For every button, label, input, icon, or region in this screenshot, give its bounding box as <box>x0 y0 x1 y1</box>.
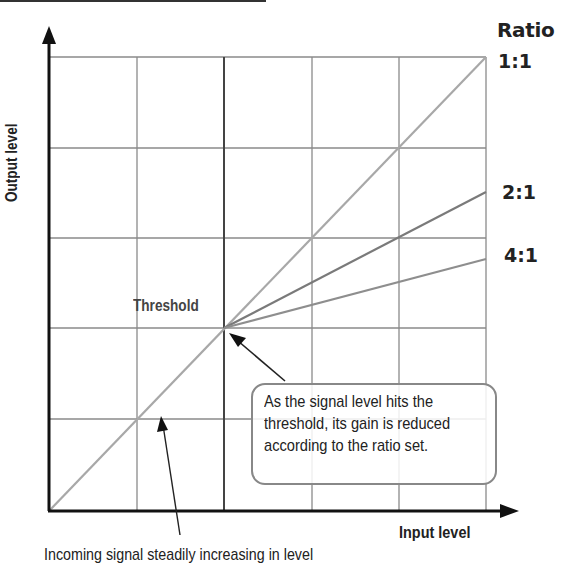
callout-box: As the signal level hits the threshold, … <box>251 383 497 485</box>
ratio-legend-title: Ratio <box>497 18 555 42</box>
callout-line: As the signal level hits the <box>264 391 496 413</box>
ratio-label-2-1: 2:1 <box>502 181 536 203</box>
x-axis-arrow-icon <box>500 504 519 518</box>
threshold-pointer <box>238 341 285 381</box>
caption-pointer <box>163 425 180 535</box>
ratio-line-2-1 <box>224 192 486 328</box>
callout-line: threshold, its gain is reduced <box>264 413 496 435</box>
x-axis-label: Input level <box>399 523 470 543</box>
ratio-line-4-1 <box>224 259 486 328</box>
caption: Incoming signal steadily increasing in l… <box>44 545 313 565</box>
ratio-label-1-1: 1:1 <box>498 50 532 72</box>
y-axis-label: Output level <box>3 103 25 223</box>
y-axis-arrow-icon <box>42 26 56 44</box>
threshold-label: Threshold <box>133 297 199 315</box>
compressor-diagram <box>0 0 568 572</box>
ratio-label-4-1: 4:1 <box>504 244 538 266</box>
callout-line: according to the ratio set. <box>264 435 496 457</box>
